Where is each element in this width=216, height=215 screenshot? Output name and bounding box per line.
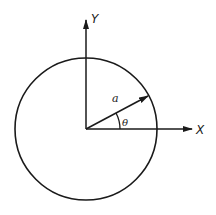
angle-arc: [116, 113, 120, 129]
x-axis-label: X: [195, 123, 205, 137]
polar-diagram: Y X a θ: [0, 0, 216, 215]
y-axis-label: Y: [91, 12, 100, 26]
angle-label: θ: [122, 117, 128, 128]
radius-label: a: [112, 92, 119, 105]
